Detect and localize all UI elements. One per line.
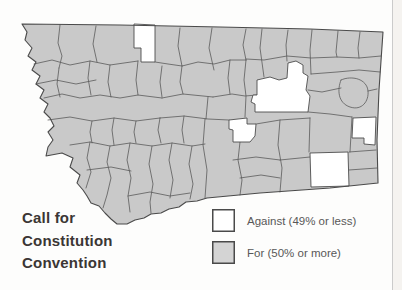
against-swatch [212, 209, 235, 232]
map-title-line-3: Convention [22, 252, 113, 275]
legend-item-against: Against (49% or less) [212, 209, 392, 232]
legend-label-for: For (50% or more) [247, 247, 341, 259]
legend-label-against: Against (49% or less) [247, 215, 356, 227]
map-legend: Against (49% or less) For (50% or more) [212, 209, 392, 273]
scanned-figure-page: Call for Constitution Convention Against… [0, 0, 402, 290]
map-title-line-2: Constitution [22, 230, 113, 253]
legend-item-for: For (50% or more) [212, 241, 392, 264]
map-title: Call for Constitution Convention [22, 207, 113, 275]
against-county-southeast-square [310, 152, 349, 187]
for-swatch [212, 241, 235, 264]
state-shape-fill [22, 24, 383, 224]
map-title-line-1: Call for [22, 207, 113, 230]
page-edge-strip [393, 0, 402, 290]
